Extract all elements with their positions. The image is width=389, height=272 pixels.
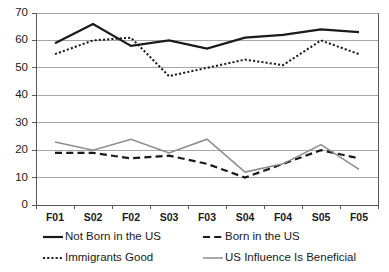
- y-axis-tick-label: 30: [0, 117, 28, 129]
- series-line-1: [55, 150, 359, 177]
- legend-item[interactable]: Not Born in the US: [42, 231, 161, 243]
- series-line-3: [55, 139, 359, 172]
- y-axis-tick-label: 10: [0, 172, 28, 184]
- y-axis-ticks: [32, 13, 36, 205]
- y-axis-tick-label: 40: [0, 89, 28, 101]
- x-axis-tick-label: F01: [36, 212, 74, 223]
- data-series: [55, 24, 359, 178]
- y-axis-tick-label: 60: [0, 34, 28, 46]
- series-line-2: [55, 38, 359, 76]
- y-axis-tick-label: 20: [0, 144, 28, 156]
- x-axis-tick-label: S05: [302, 212, 340, 223]
- dashed-black-line-icon: [202, 231, 224, 243]
- legend-item[interactable]: US Influence Is Beneficial: [202, 252, 356, 264]
- x-axis-tick-label: S04: [226, 212, 264, 223]
- legend-item-label: Immigrants Good: [65, 252, 153, 264]
- x-axis-tick-label: F02: [112, 212, 150, 223]
- legend-item-label: US Influence Is Beneficial: [225, 252, 356, 264]
- solid-black-line-icon: [42, 231, 64, 243]
- dotted-black-line-icon: [42, 252, 64, 264]
- x-axis-tick-label: F05: [340, 212, 378, 223]
- x-axis-tick-label: S02: [74, 212, 112, 223]
- solid-gray-line-icon: [202, 252, 224, 264]
- legend-item[interactable]: Born in the US: [202, 231, 300, 243]
- x-axis-tick-label: F03: [188, 212, 226, 223]
- legend-item[interactable]: Immigrants Good: [42, 252, 153, 264]
- x-axis-tick-label: F04: [264, 212, 302, 223]
- y-axis-tick-label: 0: [0, 199, 28, 211]
- y-axis-tick-label: 50: [0, 62, 28, 74]
- x-axis-tick-label: S03: [150, 212, 188, 223]
- series-line-0: [55, 24, 359, 49]
- legend-item-label: Not Born in the US: [65, 231, 161, 243]
- line-chart: 010203040506070 F01S02F02S03F03S04F04S05…: [0, 0, 389, 272]
- legend-item-label: Born in the US: [225, 231, 300, 243]
- x-axis-ticks: [36, 205, 378, 209]
- y-axis-tick-label: 70: [0, 7, 28, 19]
